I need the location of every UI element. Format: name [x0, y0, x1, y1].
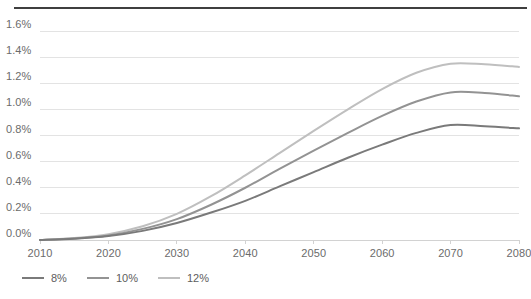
x-tick-label: 2020: [96, 247, 121, 259]
legend-item-label: 12%: [187, 272, 209, 284]
legend-item-label: 10%: [116, 272, 138, 284]
legend-item[interactable]: 8%: [22, 272, 67, 284]
legend-item[interactable]: 12%: [158, 272, 209, 284]
y-tick-label: 0.0%: [6, 227, 31, 239]
series-line-8pct: [40, 125, 519, 240]
x-tick-label: 2030: [164, 247, 189, 259]
x-tick-label: 2040: [233, 247, 258, 259]
legend-item-label: 8%: [51, 272, 67, 284]
x-tick-label: 2070: [438, 247, 463, 259]
series-line-10pct: [40, 92, 519, 240]
x-tick-label: 2080: [507, 247, 531, 259]
y-tick-label: 0.2%: [6, 201, 31, 213]
y-tick-label: 1.4%: [6, 44, 31, 56]
y-tick-label: 0.4%: [6, 175, 31, 187]
x-tick-label: 2010: [28, 247, 53, 259]
legend-line-swatch-icon: [87, 277, 109, 279]
legend-item[interactable]: 10%: [87, 272, 138, 284]
legend-line-swatch-icon: [22, 277, 44, 279]
y-tick-label: 1.0%: [6, 96, 31, 108]
chart-legend: 8%10%12%: [22, 272, 229, 284]
y-tick-label: 0.6%: [6, 149, 31, 161]
y-tick-label: 1.6%: [6, 18, 31, 30]
x-tick-label: 2050: [301, 247, 326, 259]
x-tick-label: 2060: [370, 247, 395, 259]
y-tick-label: 0.8%: [6, 123, 31, 135]
legend-line-swatch-icon: [158, 277, 180, 279]
y-tick-label: 1.2%: [6, 70, 31, 82]
